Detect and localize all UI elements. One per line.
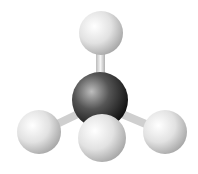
hydrogen-atom-front [78,114,126,162]
hydrogen-atom-left [17,110,61,154]
methane-molecule-illustration [0,0,198,174]
bond-right [122,114,148,125]
hydrogen-atom-right [143,110,187,154]
hydrogen-atom-top [79,11,123,55]
